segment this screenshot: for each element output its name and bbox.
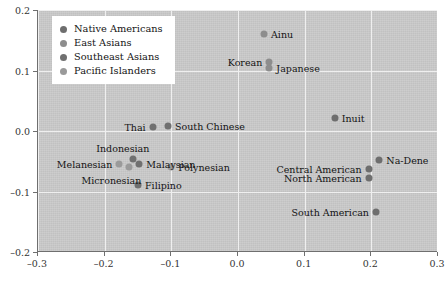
scatter-plot-figure: InuitNa-DeneCentral AmericanNorth Americ… — [0, 0, 447, 285]
data-point-label: Thai — [124, 122, 145, 133]
x-axis-tick — [304, 252, 305, 256]
data-point — [266, 65, 273, 72]
legend-item-pacific-islanders[interactable]: Pacific Islanders — [60, 64, 163, 78]
legend-swatch-icon — [60, 26, 67, 33]
data-point-label: Melanesian — [57, 159, 113, 170]
legend-swatch-icon — [60, 68, 67, 75]
x-axis-tick — [370, 252, 371, 256]
gridline-horizontal — [38, 192, 437, 193]
legend-item-native-americans[interactable]: Native Americans — [60, 22, 163, 36]
legend-item-east-asians[interactable]: East Asians — [60, 36, 163, 50]
data-point — [126, 164, 133, 171]
x-axis-tick-label: 0.2 — [363, 258, 378, 269]
data-point — [331, 114, 338, 121]
y-axis-tick — [33, 71, 37, 72]
x-axis-tick — [104, 252, 105, 256]
data-point — [136, 161, 143, 168]
y-axis-tick — [33, 192, 37, 193]
data-point-label: Filipino — [145, 180, 182, 191]
x-axis-tick-label: –0.2 — [94, 258, 114, 269]
data-point-label: Korean — [228, 57, 263, 68]
data-point-label: Inuit — [342, 112, 365, 123]
x-axis-tick — [170, 252, 171, 256]
data-point-label: Polynesian — [178, 162, 230, 173]
legend-swatch-icon — [60, 40, 67, 47]
data-point-label: Ainu — [271, 29, 293, 40]
legend-item-label: East Asians — [74, 38, 132, 48]
data-point-label: Na-Dene — [386, 155, 428, 166]
data-point-label: Micronesian — [82, 175, 142, 186]
x-axis-tick-label: –0.1 — [160, 258, 180, 269]
data-point — [373, 209, 380, 216]
gridline-horizontal — [38, 10, 437, 11]
data-point — [165, 123, 172, 130]
y-axis-tick-label: 0.1 — [0, 65, 30, 76]
chart-legend: Native AmericansEast AsiansSoutheast Asi… — [52, 16, 175, 84]
y-axis-tick — [33, 252, 37, 253]
legend-item-label: Southeast Asians — [74, 52, 159, 62]
data-point-label: Indonesian — [96, 142, 149, 153]
x-axis-tick-label: –0.3 — [27, 258, 47, 269]
x-axis-tick-label: 0.1 — [296, 258, 311, 269]
legend-item-label: Pacific Islanders — [74, 66, 156, 76]
y-axis-tick — [33, 131, 37, 132]
x-axis-tick-label: 0.0 — [229, 258, 244, 269]
legend-item-southeast-asians[interactable]: Southeast Asians — [60, 50, 163, 64]
y-axis-tick-label: –0.1 — [0, 186, 30, 197]
data-point-label: North American — [284, 173, 362, 184]
data-point — [116, 161, 123, 168]
x-axis-tick-label: 0.3 — [429, 258, 444, 269]
x-axis-tick — [237, 252, 238, 256]
data-point — [149, 124, 156, 131]
y-axis-tick-label: 0.2 — [0, 5, 30, 16]
data-point — [365, 165, 372, 172]
data-point-label: South American — [292, 207, 369, 218]
x-axis-tick — [437, 252, 438, 256]
data-point-label: Japanese — [276, 63, 319, 74]
legend-item-label: Native Americans — [74, 24, 163, 34]
data-point — [261, 31, 268, 38]
y-axis-tick — [33, 10, 37, 11]
data-point — [376, 157, 383, 164]
data-point-label: South Chinese — [175, 121, 245, 132]
x-axis-tick — [37, 252, 38, 256]
data-point — [365, 175, 372, 182]
y-axis-tick-label: –0.2 — [0, 247, 30, 258]
y-axis-tick-label: 0.0 — [0, 126, 30, 137]
legend-swatch-icon — [60, 54, 67, 61]
